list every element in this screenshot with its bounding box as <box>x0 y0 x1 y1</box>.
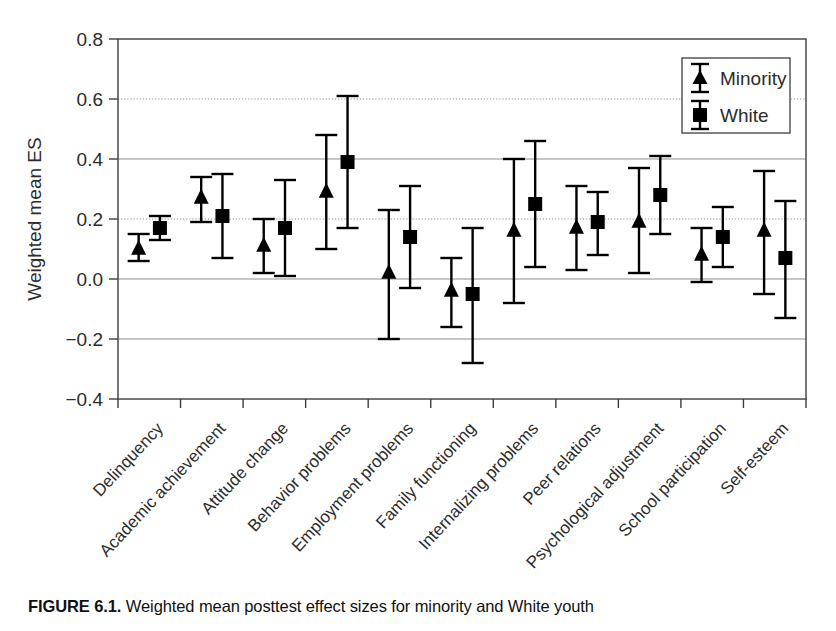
marker-square-white <box>403 230 417 244</box>
data-point-group <box>774 201 796 318</box>
marker-square-white <box>716 230 730 244</box>
data-point-group <box>462 228 484 363</box>
chart-canvas: −0.4−0.20.00.20.40.60.8Weighted mean ESD… <box>0 0 836 631</box>
marker-square-white <box>778 251 792 265</box>
y-axis-tick-label: 0.6 <box>77 89 103 110</box>
y-axis-tick-label: 0.4 <box>77 149 104 170</box>
data-point-group <box>691 228 713 282</box>
marker-triangle-minority <box>319 183 334 198</box>
marker-triangle-minority <box>381 264 396 279</box>
legend-marker-square <box>693 108 707 122</box>
x-axis-category-label: Employment problems <box>288 419 417 556</box>
marker-triangle-minority <box>632 213 647 228</box>
y-axis-tick-label: 0.2 <box>77 209 103 230</box>
legend-label-white: White <box>720 105 769 126</box>
data-point-group <box>128 234 150 261</box>
figure-caption-text: Weighted mean posttest effect sizes for … <box>126 597 594 615</box>
data-point-group <box>587 192 609 255</box>
legend-label-minority: Minority <box>720 68 787 89</box>
x-axis-category-label: School participation <box>615 419 730 540</box>
marker-triangle-minority <box>506 222 521 237</box>
marker-square-white <box>653 188 667 202</box>
marker-triangle-minority <box>757 222 772 237</box>
marker-triangle-minority <box>194 189 209 204</box>
data-point-group <box>399 186 421 288</box>
figure-caption-label: FIGURE 6.1. <box>28 597 121 615</box>
data-point-group <box>149 216 171 240</box>
data-point-group <box>378 210 400 339</box>
marker-square-white <box>466 287 480 301</box>
data-point-group <box>503 159 525 303</box>
marker-triangle-minority <box>131 240 146 255</box>
marker-square-white <box>341 155 355 169</box>
data-point-group <box>190 177 212 222</box>
y-axis-title: Weighted mean ES <box>24 137 45 300</box>
x-axis-category-label: Academic achievement <box>96 419 230 561</box>
data-point-group <box>649 156 671 234</box>
data-point-group <box>565 186 587 270</box>
data-point-group <box>211 174 233 258</box>
marker-triangle-minority <box>694 246 709 261</box>
data-point-group <box>337 96 359 228</box>
data-point-group <box>274 180 296 276</box>
x-axis-category-label: Internalizing problems <box>415 419 542 554</box>
y-axis-tick-label: −0.4 <box>65 389 103 410</box>
marker-square-white <box>215 209 229 223</box>
data-point-group <box>753 171 775 294</box>
marker-triangle-minority <box>444 282 459 297</box>
figure-caption: FIGURE 6.1. Weighted mean posttest effec… <box>28 596 818 617</box>
y-axis-tick-label: −0.2 <box>65 329 103 350</box>
marker-square-white <box>528 197 542 211</box>
data-point-group <box>440 258 462 327</box>
marker-square-white <box>278 221 292 235</box>
marker-square-white <box>591 215 605 229</box>
data-point-group <box>712 207 734 267</box>
data-point-group <box>315 135 337 249</box>
data-point-group <box>524 141 546 267</box>
marker-triangle-minority <box>256 237 271 252</box>
data-point-group <box>253 219 275 273</box>
figure-container: −0.4−0.20.00.20.40.60.8Weighted mean ESD… <box>0 0 836 631</box>
data-point-group <box>628 168 650 273</box>
marker-square-white <box>153 221 167 235</box>
y-axis-tick-label: 0.0 <box>77 269 103 290</box>
y-axis-tick-label: 0.8 <box>77 29 103 50</box>
marker-triangle-minority <box>569 219 584 234</box>
